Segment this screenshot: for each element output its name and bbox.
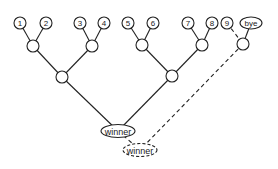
player-label: 6 (151, 19, 156, 28)
player-node-p9: 9 (221, 17, 233, 29)
player-label: 2 (44, 19, 49, 28)
player-node-p7: 7 (182, 17, 194, 29)
tournament-diagram: 123456789byewinnerwinner (0, 0, 278, 169)
match-node-m56 (136, 39, 148, 51)
match-node-m9bye (237, 38, 249, 50)
match-node-m78 (196, 39, 208, 51)
player-node-p2: 2 (40, 17, 52, 29)
player-label: 7 (186, 19, 191, 28)
player-label: 3 (78, 19, 83, 28)
match-node-semi-right (166, 70, 178, 82)
player-label: bye (245, 19, 258, 28)
player-node-bye: bye (240, 17, 262, 29)
match-node-semi-left (56, 71, 68, 83)
player-node-p4: 4 (98, 17, 110, 29)
player-node-p1: 1 (14, 17, 26, 29)
player-label: 4 (102, 19, 107, 28)
match-node-m34 (86, 40, 98, 52)
edge-semi-left-to-winner (62, 77, 118, 131)
winner-node-label: winner (104, 127, 132, 137)
player-label: 9 (225, 19, 230, 28)
player-label: 5 (126, 19, 131, 28)
player-node-p5: 5 (122, 17, 134, 29)
edge-m9bye-to-final-winner (140, 44, 243, 150)
final-winner-node-label: winner (126, 146, 154, 156)
player-label: 1 (18, 19, 23, 28)
player-node-p3: 3 (74, 17, 86, 29)
winner-node: winner (101, 125, 135, 138)
player-node-p6: 6 (147, 17, 159, 29)
player-node-p8: 8 (206, 17, 218, 29)
match-node-m12 (27, 40, 39, 52)
final-winner-node: winner (123, 144, 157, 157)
edge-semi-right-to-winner (118, 76, 172, 131)
player-label: 8 (210, 19, 215, 28)
